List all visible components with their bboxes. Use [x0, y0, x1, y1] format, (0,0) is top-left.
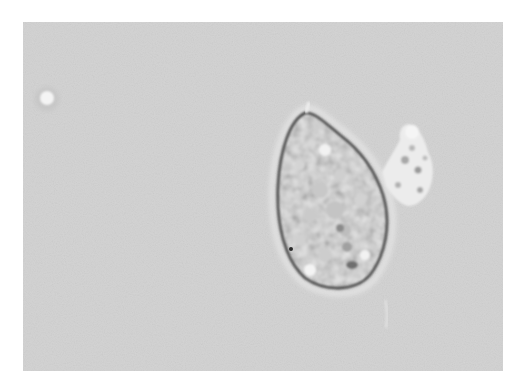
bright-particle — [35, 87, 59, 111]
micrograph-image — [0, 0, 523, 389]
microscope-field — [23, 22, 503, 371]
